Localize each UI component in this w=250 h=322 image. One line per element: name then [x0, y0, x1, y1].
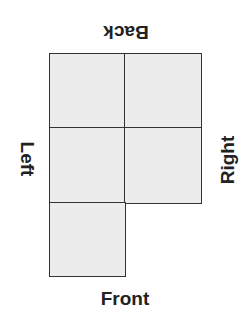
cell-r2-c1: [49, 127, 126, 204]
front-label: Front: [92, 288, 158, 310]
left-label: Left: [16, 134, 38, 184]
cell-r2-c2: [124, 127, 202, 204]
cell-r3-c1: [49, 202, 126, 277]
back-label: Back: [96, 21, 156, 43]
cell-r1-c2: [124, 53, 202, 129]
right-label: Right: [217, 130, 239, 190]
cell-r1-c1: [49, 53, 126, 129]
